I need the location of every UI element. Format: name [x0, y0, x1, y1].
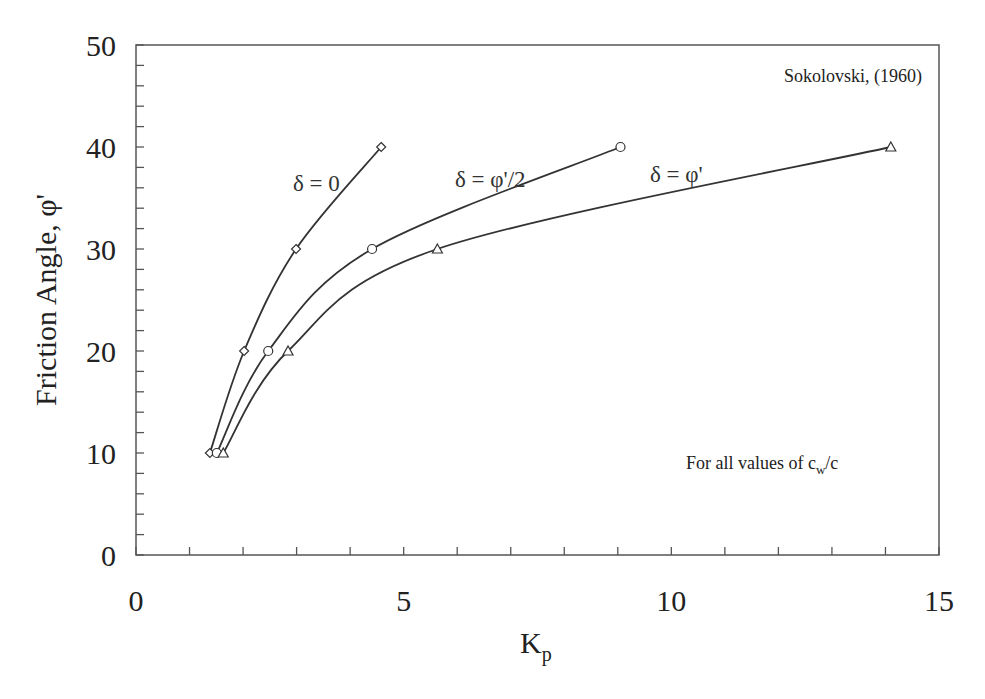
triangle-marker-icon: [886, 142, 896, 151]
x-tick-label: 10: [656, 584, 686, 617]
note-prefix: For all values of c: [686, 453, 816, 473]
y-tick-label: 10: [86, 437, 116, 470]
plot-frame: [136, 45, 939, 555]
curve-label-delta-phi: δ = φ': [650, 162, 703, 187]
note-suffix: /c: [825, 453, 838, 473]
chart-canvas: 05101501020304050 δ = 0 δ = φ'/2 δ = φ' …: [0, 0, 985, 699]
note-annotation: For all values of cw/c: [686, 453, 838, 477]
x-tick-label: 0: [129, 584, 144, 617]
curve-label-delta-0: δ = 0: [293, 171, 340, 196]
y-tick-label: 20: [86, 335, 116, 368]
axis-ticks: [136, 45, 939, 555]
series-curve-circle: [217, 147, 621, 453]
tick-labels: 05101501020304050: [86, 29, 954, 617]
y-tick-label: 0: [101, 539, 116, 572]
x-tick-label: 5: [396, 584, 411, 617]
y-axis-title: Friction Angle, φ': [29, 194, 62, 406]
x-axis-title-sub: p: [542, 643, 552, 666]
y-tick-label: 50: [86, 29, 116, 62]
diamond-marker-icon: [240, 347, 249, 356]
x-axis-title: Kp: [520, 626, 552, 666]
x-tick-label: 15: [924, 584, 954, 617]
source-annotation: Sokolovski, (1960): [784, 66, 922, 87]
plot-border: [136, 45, 939, 555]
circle-marker-icon: [368, 245, 377, 254]
y-tick-label: 40: [86, 131, 116, 164]
curve-label-delta-half-phi: δ = φ'/2: [455, 167, 526, 192]
circle-marker-icon: [264, 347, 273, 356]
circle-marker-icon: [616, 143, 625, 152]
x-axis-title-main: K: [520, 626, 542, 659]
y-tick-label: 30: [86, 233, 116, 266]
